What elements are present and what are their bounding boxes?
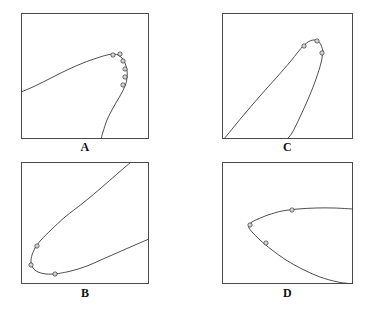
curve-segment-lower-branch [252,232,353,284]
curve-segment-lower-branch [56,239,149,274]
curve-segment-right-branch [287,51,323,139]
panel-a [21,13,149,139]
panel-b-plot [21,162,149,284]
data-point-center [265,242,266,243]
data-point-center [122,84,123,85]
panel-d-label: D [222,286,353,300]
curve-segment-left-branch [224,46,303,139]
panel-b-label: B [21,286,149,300]
data-point-center [124,76,125,77]
figure-root: A C B D [0,0,369,309]
data-point-center [303,45,304,46]
data-point-center [122,60,123,61]
curve-segment-upper-branch [35,162,131,248]
data-point-center [30,264,31,265]
data-point-center [249,224,250,225]
panel-b [21,162,149,284]
data-point-center [119,53,120,54]
data-point-center [321,52,322,53]
data-point-center [316,40,317,41]
data-point-center [291,209,292,210]
data-point-center [54,273,55,274]
data-point-center [112,54,113,55]
panel-d [222,162,353,284]
curve-segment-upper-branch [21,54,118,92]
panel-a-label: A [21,140,149,154]
panel-a-plot [21,13,149,139]
panel-d-plot [222,162,353,284]
data-point-center [36,245,37,246]
curve-segment-upper-branch [258,208,353,219]
panel-c [222,13,353,139]
curve-segment-vertex [31,248,56,274]
panel-c-plot [222,13,353,139]
data-point-center [124,68,125,69]
panel-c-label: C [222,140,353,154]
